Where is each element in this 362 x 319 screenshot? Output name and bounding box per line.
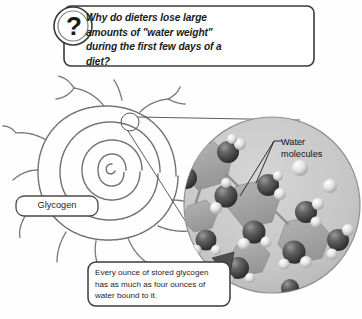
question-callout-text: Why do dieters lose large amounts of "wa… <box>86 11 236 69</box>
question-mark-icon: ? <box>62 11 86 41</box>
water-molecules-label-text: Watermolecules <box>281 136 351 160</box>
magnifier-source-marker <box>121 113 139 131</box>
glycogen-spiral <box>38 106 178 240</box>
water-label-line-2: molecules <box>281 149 322 159</box>
caption-callout-text: Every ounce of stored glycogen has as mu… <box>95 267 223 302</box>
water-label-line-1: Water <box>281 137 305 147</box>
glycogen-label-text: Glycogen <box>22 200 92 210</box>
figure-canvas: Why do dieters lose large amounts of "wa… <box>0 0 362 319</box>
